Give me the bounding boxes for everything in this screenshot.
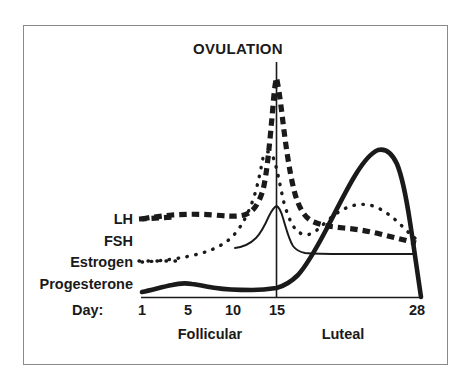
hormone-cycle-figure: OVULATION LH FSH Estrogen Progesterone D… bbox=[0, 0, 472, 383]
tick-label-day-28: 28 bbox=[403, 303, 431, 318]
phase-label-luteal: Luteal bbox=[303, 327, 383, 342]
legend-item-lh: LH bbox=[114, 212, 133, 227]
progesterone-curve bbox=[142, 150, 421, 297]
phase-label-follicular: Follicular bbox=[165, 327, 255, 342]
tick-label-day-15: 15 bbox=[263, 303, 291, 318]
tick-label-day-1: 1 bbox=[132, 303, 152, 318]
legend-item-estrogen: Estrogen bbox=[70, 255, 133, 270]
legend-swatch-lh bbox=[139, 217, 175, 219]
tick-label-day-10: 10 bbox=[219, 303, 247, 318]
legend-item-fsh: FSH bbox=[104, 234, 133, 249]
tick-label-day-5: 5 bbox=[178, 303, 198, 318]
day-axis-caption: Day: bbox=[72, 303, 103, 318]
lh-curve bbox=[142, 78, 416, 243]
legend-item-progesterone: Progesterone bbox=[40, 277, 133, 292]
